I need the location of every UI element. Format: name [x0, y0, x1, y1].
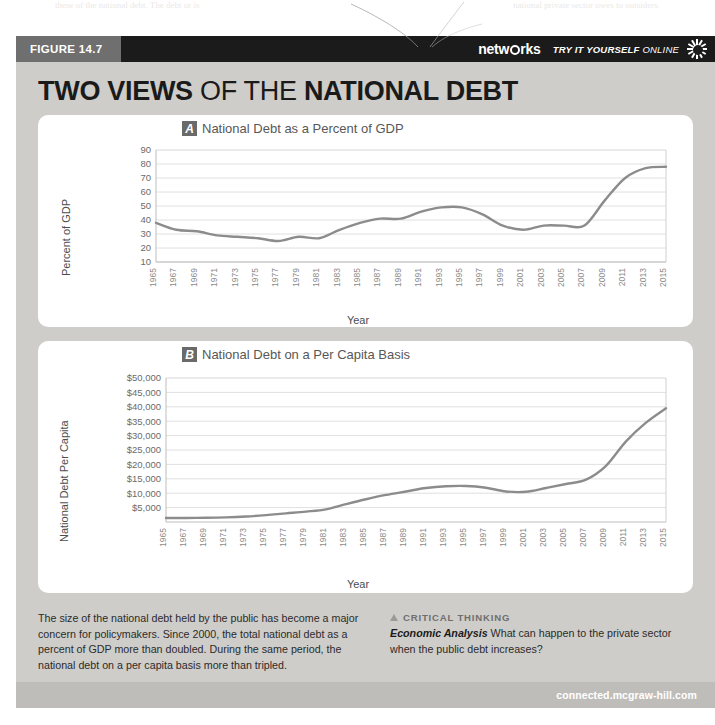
panel-letter-a: A	[182, 121, 197, 136]
svg-text:1965: 1965	[158, 528, 168, 547]
svg-text:1997: 1997	[474, 268, 484, 287]
panel-letter-b: B	[182, 347, 197, 362]
svg-text:1985: 1985	[358, 528, 368, 547]
svg-text:2001: 2001	[515, 268, 525, 287]
critical-thinking-heading: CRITICAL THINKING	[390, 612, 690, 623]
svg-text:2001: 2001	[518, 528, 528, 547]
networks-brand-text-part1: netw	[478, 41, 509, 57]
svg-text:1975: 1975	[258, 528, 268, 547]
svg-text:1983: 1983	[338, 528, 348, 547]
svg-text:1995: 1995	[458, 528, 468, 547]
svg-text:30: 30	[140, 228, 151, 239]
svg-text:1969: 1969	[198, 528, 208, 547]
svg-text:1993: 1993	[434, 268, 444, 287]
svg-text:$10,000: $10,000	[127, 488, 161, 499]
chart-a-xlabel: Year	[38, 314, 678, 326]
svg-text:1981: 1981	[318, 528, 328, 547]
chart-b-heading: B National Debt on a Per Capita Basis	[38, 341, 693, 362]
chart-a-title: National Debt as a Percent of GDP	[202, 121, 404, 136]
networks-brand-text-part2: rks	[520, 41, 540, 57]
critical-thinking-body: Economic Analysis What can happen to the…	[390, 626, 690, 657]
svg-text:1971: 1971	[209, 268, 219, 287]
figure-caption: The size of the national debt held by th…	[38, 611, 368, 673]
svg-text:1971: 1971	[218, 528, 228, 547]
svg-text:1973: 1973	[238, 528, 248, 547]
economic-analysis-label: Economic Analysis	[390, 627, 488, 639]
svg-text:20: 20	[140, 242, 151, 253]
figure-number-label: FIGURE 14.7	[16, 36, 121, 62]
svg-text:$35,000: $35,000	[127, 416, 161, 427]
svg-text:1985: 1985	[352, 268, 362, 287]
svg-text:2007: 2007	[578, 528, 588, 547]
svg-text:10: 10	[140, 256, 151, 267]
svg-text:1967: 1967	[178, 528, 188, 547]
chart-b-ylabel: National Debt Per Capita	[58, 420, 70, 542]
chart-a-heading: A National Debt as a Percent of GDP	[38, 115, 693, 136]
svg-text:60: 60	[140, 186, 151, 197]
critical-thinking-block: CRITICAL THINKING Economic Analysis What…	[390, 611, 690, 673]
chart-b-xlabel: Year	[38, 578, 678, 590]
svg-text:1995: 1995	[454, 268, 464, 287]
svg-text:1967: 1967	[168, 268, 178, 287]
critical-thinking-heading-text: CRITICAL THINKING	[403, 612, 510, 623]
svg-text:2013: 2013	[638, 528, 648, 547]
footer-url[interactable]: connected.mcgraw-hill.com	[556, 689, 697, 701]
svg-text:2015: 2015	[658, 528, 668, 547]
title-part-2: OF THE	[193, 76, 304, 106]
svg-text:80: 80	[140, 158, 151, 169]
svg-text:2011: 2011	[618, 528, 628, 547]
svg-text:1977: 1977	[278, 528, 288, 547]
svg-text:90: 90	[140, 144, 151, 155]
chart-a-svg: 9080706050403020101965196719691971197319…	[38, 136, 693, 321]
svg-text:2011: 2011	[617, 268, 627, 287]
svg-text:40: 40	[140, 214, 151, 225]
svg-text:$20,000: $20,000	[127, 459, 161, 470]
svg-text:2013: 2013	[638, 268, 648, 287]
svg-text:1965: 1965	[148, 268, 158, 287]
chart-b-plot-wrap: National Debt Per Capita $50,000$45,000$…	[38, 362, 693, 584]
svg-text:$15,000: $15,000	[127, 473, 161, 484]
figure-block: FIGURE 14.7 netwrks TRY IT YOURSELF ONLI…	[16, 36, 715, 708]
chart-a-plot-wrap: Percent of GDP 9080706050403020101965196…	[38, 136, 693, 321]
svg-text:$5,000: $5,000	[132, 502, 161, 513]
svg-text:1977: 1977	[270, 268, 280, 287]
svg-text:1999: 1999	[498, 528, 508, 547]
svg-text:1981: 1981	[311, 268, 321, 287]
svg-text:1979: 1979	[298, 528, 308, 547]
svg-text:1991: 1991	[413, 268, 423, 287]
svg-text:$30,000: $30,000	[127, 430, 161, 441]
svg-text:2009: 2009	[598, 528, 608, 547]
svg-text:$25,000: $25,000	[127, 444, 161, 455]
page-bleed-text: these of the national debt. The debt or …	[0, 0, 715, 30]
svg-text:70: 70	[140, 172, 151, 183]
svg-text:1997: 1997	[478, 528, 488, 547]
svg-text:1989: 1989	[398, 528, 408, 547]
page-bleed-right: national private sector owes to outsider…	[513, 0, 660, 30]
svg-text:2009: 2009	[597, 268, 607, 287]
figure-footer: connected.mcgraw-hill.com	[16, 682, 715, 708]
svg-text:1973: 1973	[230, 268, 240, 287]
svg-text:1993: 1993	[438, 528, 448, 547]
chart-card-a: A National Debt as a Percent of GDP Perc…	[38, 115, 693, 327]
try-it-yourself-label[interactable]: TRY IT YOURSELF ONLINE	[553, 44, 679, 55]
figure-header-bar: FIGURE 14.7 netwrks TRY IT YOURSELF ONLI…	[16, 36, 715, 62]
svg-text:1979: 1979	[291, 268, 301, 287]
svg-text:2005: 2005	[556, 268, 566, 287]
caption-area: The size of the national debt held by th…	[16, 607, 715, 673]
svg-text:2015: 2015	[658, 268, 668, 287]
svg-text:1983: 1983	[332, 268, 342, 287]
title-part-3: NATIONAL DEBT	[304, 76, 518, 106]
try-it-text: TRY IT YOURSELF	[553, 44, 640, 55]
svg-text:2003: 2003	[536, 268, 546, 287]
triangle-up-icon	[390, 614, 398, 621]
svg-text:$45,000: $45,000	[127, 387, 161, 398]
title-part-1: TWO VIEWS	[38, 76, 193, 106]
svg-text:$50,000: $50,000	[127, 372, 161, 383]
svg-text:1987: 1987	[378, 528, 388, 547]
globe-o-icon	[510, 45, 520, 55]
svg-text:2003: 2003	[538, 528, 548, 547]
svg-text:1987: 1987	[372, 268, 382, 287]
chart-card-b: B National Debt on a Per Capita Basis Na…	[38, 341, 693, 593]
svg-text:1999: 1999	[495, 268, 505, 287]
svg-text:2007: 2007	[576, 268, 586, 287]
